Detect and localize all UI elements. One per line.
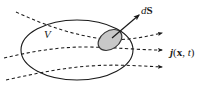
diagram-canvas: V dS j(x, t) [0,0,210,90]
flow-line-1 [16,12,162,40]
flow-line-2 [4,47,162,58]
surface-element-label: dS [141,4,153,16]
volume-boundary-ellipse [21,20,133,80]
volume-label: V [44,28,52,40]
current-density-close-paren: ) [191,46,195,59]
current-density-label: j(x, t) [168,46,195,59]
surface-element-label-s: S [147,4,153,16]
flow-line-3 [6,65,162,80]
physics-flux-diagram: V dS j(x, t) [0,0,210,90]
